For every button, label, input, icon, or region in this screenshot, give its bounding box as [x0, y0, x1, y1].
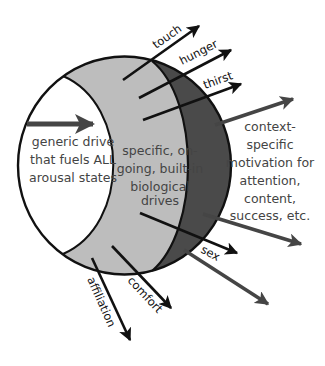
- context-line-5: content,: [244, 191, 296, 206]
- biological-line-1: specific, on-: [122, 143, 197, 158]
- generic-region-text: generic drive that fuels ALL arousal sta…: [29, 134, 117, 185]
- biological-line-3: biological: [130, 179, 190, 194]
- generic-line-1: generic drive: [32, 134, 115, 149]
- context-line-4: attention,: [240, 173, 301, 188]
- context-line-2: specific: [246, 137, 293, 152]
- touch-label: touch: [150, 21, 185, 51]
- hunger-label: hunger: [177, 36, 220, 67]
- context-region-text: context- specific motivation for attenti…: [226, 119, 315, 223]
- biological-line-4: drives: [141, 193, 179, 208]
- arousal-diagram: touch hunger thirst sex comfort affiliat…: [0, 0, 325, 366]
- biological-line-2: going, built-in: [117, 161, 203, 176]
- context-line-3: motivation for: [226, 155, 315, 170]
- context-line-1: context-: [244, 119, 296, 134]
- generic-line-2: that fuels ALL: [30, 152, 116, 167]
- context-line-6: success, etc.: [230, 208, 310, 223]
- generic-line-3: arousal states: [29, 170, 117, 185]
- context-arrow-lower-2: [184, 250, 268, 304]
